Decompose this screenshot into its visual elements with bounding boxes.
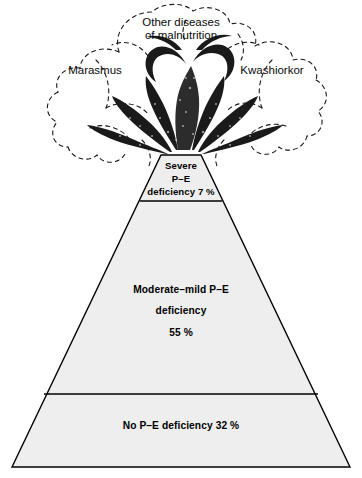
tier-moderate-line2: deficiency — [156, 305, 207, 316]
cloud-label-kwashiorkor: Kwashiorkor — [240, 64, 303, 76]
tier-moderate-line1: Moderate–mild P–E — [133, 284, 229, 295]
tier-severe-line1: Severe — [165, 160, 197, 171]
cloud-label-other-diseases-line1: Other diseases — [142, 16, 220, 28]
tier-severe-line2: P–E — [172, 173, 191, 184]
tier-none-line1: No P–E deficiency 32 % — [123, 420, 240, 431]
tier-severe-line3: deficiency 7 % — [147, 186, 215, 197]
cloud-label-other-diseases-line2: of malnutrition — [145, 29, 217, 41]
tier-moderate-line3: 55 % — [169, 327, 193, 338]
malnutrition-pyramid-figure: Other diseases of malnutrition Marasmus … — [0, 0, 362, 478]
cloud-label-marasmus: Marasmus — [68, 64, 122, 76]
